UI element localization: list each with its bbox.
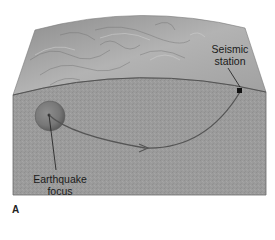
seismic-station-marker: [237, 88, 242, 93]
seismic-station-label: Seismic station: [208, 43, 252, 67]
focus-label-line1: Earthquake: [29, 173, 91, 185]
earthquake-focus-label: Earthquake focus: [29, 173, 91, 197]
focus-label-line2: focus: [29, 185, 91, 197]
station-label-line1: Seismic: [208, 43, 252, 55]
panel-label: A: [12, 204, 19, 215]
station-label-line2: station: [208, 55, 252, 67]
